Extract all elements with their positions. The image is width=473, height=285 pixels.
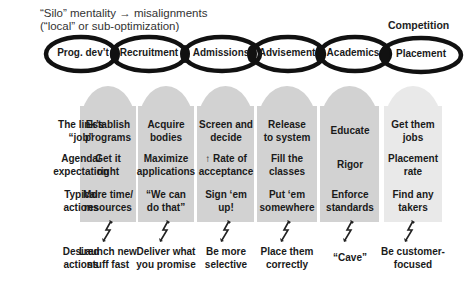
chain-links-graphic (0, 0, 473, 90)
chain-link-academics: Academics (320, 47, 386, 58)
col3-typical: Sign ‘emup! (193, 189, 259, 214)
col4-job: Releaseto system (254, 119, 320, 144)
col4-typical: Put ‘emsomewhere (254, 189, 320, 214)
chain-link-prog-dev: Prog. dev’t (56, 47, 110, 58)
lightning-bolt-icon (402, 220, 418, 242)
col5-agenda: Rigor (317, 159, 383, 172)
col5-job: Educate (317, 125, 383, 138)
lightning-bolt-icon (278, 220, 294, 242)
col2-desired: Deliver whatyou promise (132, 246, 200, 271)
chain-link-advisement: Advisement (252, 47, 322, 58)
col3-desired: Be moreselective (193, 246, 259, 271)
col1-typical: More time/resources (76, 189, 140, 214)
col6-typical: Find anytakers (380, 189, 446, 214)
col3-job: Screen anddecide (193, 119, 259, 144)
col1-agenda: Get itright (76, 153, 140, 178)
lightning-bolt-icon (157, 220, 173, 242)
col2-agenda: Maximizeapplications (134, 153, 198, 178)
col3-agenda: ↑ Rate ofacceptance (193, 153, 259, 178)
col2-typical: “We cando that” (134, 189, 198, 214)
lightning-bolt-icon (100, 220, 116, 242)
chain-link-admissions: Admissions (188, 47, 254, 58)
col5-typical: Enforcestandards (317, 189, 383, 214)
col6-agenda: Placementrate (380, 153, 446, 178)
chain-link-placement: Placement (392, 48, 450, 59)
col6-desired: Be customer-focused (376, 246, 450, 271)
col5-desired: “Cave” (317, 252, 383, 265)
col1-job: Establishprograms (76, 119, 140, 144)
col6-job: Get themjobs (380, 119, 446, 144)
col1-desired: Launch newstuff fast (76, 246, 140, 271)
col2-job: Acquirebodies (134, 119, 198, 144)
lightning-bolt-icon (341, 220, 357, 242)
lightning-bolt-icon (218, 220, 234, 242)
col4-agenda: Fill theclasses (254, 153, 320, 178)
chain-link-recruitment: Recruitment (116, 47, 182, 58)
col4-desired: Place themcorrectly (254, 246, 320, 271)
